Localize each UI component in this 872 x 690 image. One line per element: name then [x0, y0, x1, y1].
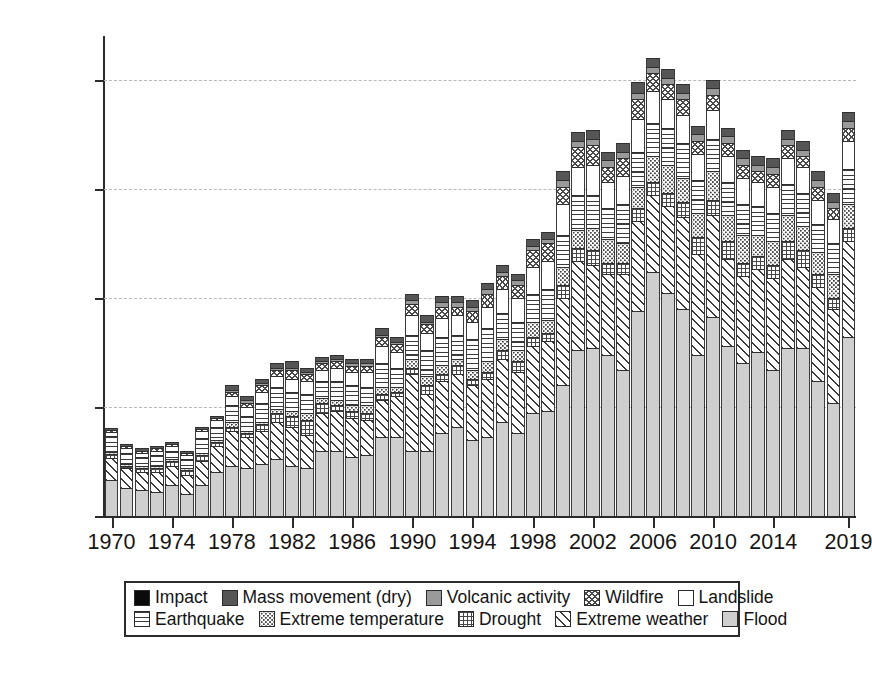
- bar-segment: [647, 73, 659, 90]
- bar-1988: [375, 328, 389, 516]
- bar-segment: [843, 337, 855, 516]
- legend-item[interactable]: Wildfire: [584, 589, 663, 607]
- bar-segment: [782, 215, 794, 241]
- legend-row-2: EarthquakeExtreme temperatureDroughtExtr…: [134, 611, 730, 629]
- bar-segment: [812, 171, 824, 180]
- bar-segment: [707, 95, 719, 110]
- legend-item[interactable]: Earthquake: [134, 611, 245, 629]
- bar-segment: [812, 200, 824, 224]
- bar-segment: [692, 154, 704, 180]
- bar-segment: [782, 241, 794, 258]
- bar-segment: [602, 239, 614, 263]
- x-axis-tick: [653, 518, 655, 528]
- bar-segment: [316, 451, 328, 516]
- bar-segment: [391, 396, 403, 437]
- bar-segment: [436, 365, 448, 374]
- bar-segment: [572, 195, 584, 230]
- bar-segment: [782, 130, 794, 139]
- bar-segment: [722, 259, 734, 346]
- bar-1970: [105, 428, 119, 516]
- bar-segment: [692, 180, 704, 213]
- legend-label: Wildfire: [605, 589, 663, 607]
- bar-1986: [345, 359, 359, 516]
- bar-segment: [121, 488, 133, 516]
- legend-item[interactable]: Extreme temperature: [259, 611, 444, 629]
- bar-segment: [241, 416, 253, 431]
- bar-1971: [120, 444, 134, 516]
- bar-segment: [572, 350, 584, 516]
- bar-segment: [542, 289, 554, 320]
- bar-segment: [843, 112, 855, 121]
- bar-segment: [722, 128, 734, 137]
- legend-item[interactable]: Extreme weather: [555, 611, 708, 629]
- legend-item[interactable]: Flood: [722, 611, 787, 629]
- bar-segment: [482, 328, 494, 361]
- bar-segment: [767, 265, 779, 278]
- bar-segment: [361, 405, 373, 414]
- bar-segment: [452, 335, 464, 359]
- bar-segment: [737, 276, 749, 363]
- legend-row-1: ImpactMass movement (dry)Volcanic activi…: [134, 589, 730, 607]
- bar-segment: [241, 437, 253, 468]
- bar-segment: [752, 235, 764, 257]
- bar-segment: [752, 182, 764, 206]
- bar-segment: [271, 459, 283, 516]
- bar-2001: [571, 132, 585, 516]
- bar-segment: [843, 169, 855, 204]
- bar-1997: [511, 274, 525, 516]
- bar-segment: [828, 298, 840, 309]
- bar-segment: [722, 156, 734, 182]
- bar-segment: [557, 171, 569, 180]
- bar-segment: [286, 466, 298, 516]
- legend-item[interactable]: Mass movement (dry): [222, 589, 412, 607]
- bar-2000: [556, 171, 570, 516]
- bar-segment: [391, 437, 403, 516]
- bar-segment: [301, 468, 313, 516]
- bar-segment: [587, 165, 599, 196]
- bar-2008: [676, 84, 690, 516]
- x-axis-tick-label: 1978: [208, 530, 256, 555]
- bar-1987: [360, 359, 374, 516]
- bar-segment: [707, 171, 719, 199]
- legend-item[interactable]: Drought: [458, 611, 541, 629]
- bar-segment: [828, 208, 840, 219]
- bar-1985: [330, 355, 344, 516]
- bar-segment: [737, 263, 749, 276]
- legend-item[interactable]: Volcanic activity: [426, 589, 571, 607]
- bar-1982: [285, 361, 299, 516]
- bar-segment: [436, 337, 448, 365]
- bar-segment: [617, 143, 629, 152]
- bar-segment: [767, 241, 779, 265]
- bar-segment: [737, 150, 749, 159]
- bar-segment: [542, 341, 554, 411]
- legend-item[interactable]: Impact: [134, 589, 208, 607]
- bar-segment: [812, 381, 824, 516]
- bar-2019: [842, 112, 856, 516]
- bar-segment: [421, 324, 433, 333]
- x-axis-tick-label: 2019: [825, 530, 872, 555]
- bar-segment: [662, 193, 674, 206]
- bar-segment: [106, 458, 118, 480]
- bar-2005: [631, 82, 645, 516]
- bar-segment: [241, 468, 253, 516]
- bar-1994: [466, 300, 480, 516]
- bar-segment: [316, 381, 328, 398]
- x-axis-tick-label: 1982: [268, 530, 316, 555]
- bar-segment: [406, 335, 418, 359]
- x-axis-tick: [593, 518, 595, 528]
- bar-segment: [812, 274, 824, 287]
- bar-segment: [467, 370, 479, 379]
- bar-segment: [617, 263, 629, 274]
- y-axis-tick: [95, 189, 104, 191]
- legend-swatch-icon: [678, 590, 694, 606]
- bar-segment: [467, 440, 479, 516]
- bar-2014: [766, 158, 780, 516]
- bar-1972: [135, 448, 149, 516]
- bar-segment: [181, 459, 193, 468]
- bar-segment: [482, 294, 494, 307]
- bar-segment: [737, 165, 749, 178]
- legend-item[interactable]: Landslide: [678, 589, 774, 607]
- bar-segment: [797, 267, 809, 348]
- x-axis-tick-label: 2002: [569, 530, 617, 555]
- bar-segment: [752, 352, 764, 516]
